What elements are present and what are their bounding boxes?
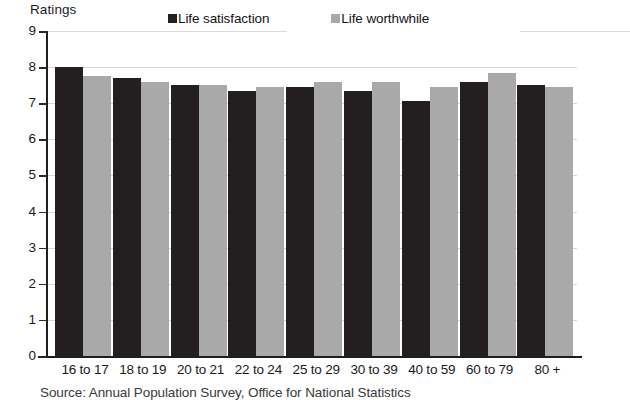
y-axis-tick-label: 8 [4,60,36,74]
bar [171,85,199,356]
legend-swatch-icon [168,14,177,23]
bar-group [344,31,404,356]
legend-item-life-satisfaction: Life satisfaction [168,11,269,26]
x-axis-category-labels: 16 to 1718 to 1920 to 2122 to 2425 to 29… [47,362,577,382]
y-axis-tick-mark [39,212,47,214]
x-axis-category-label: 80 + [512,362,582,377]
bar [286,87,314,356]
bar-group [517,31,577,356]
bar-group [113,31,173,356]
bar [141,82,169,356]
bar [314,82,342,356]
y-axis-tick-label: 7 [4,96,36,110]
bar [199,85,227,356]
bar [488,73,516,356]
y-axis-tick-label: 4 [4,205,36,219]
y-axis-tick-mark [39,356,47,358]
x-axis-line [38,356,582,358]
bar-group [286,31,346,356]
y-axis-tick-label: 5 [4,169,36,183]
y-axis-tick-label: 1 [4,313,36,327]
bar [517,85,545,356]
bar-series-layer [47,31,577,356]
source-note: Source: Annual Population Survey, Office… [40,385,411,400]
bar-group [171,31,231,356]
bar-group [402,31,462,356]
y-axis-tick-mark [39,175,47,177]
y-axis-tick-mark [39,103,47,105]
y-axis-tick-label: 6 [4,133,36,147]
y-axis-tick-mark [39,67,47,69]
bar [545,87,573,356]
y-axis-title: Ratings [30,2,76,17]
bar [372,82,400,356]
y-axis-tick-mark [39,139,47,141]
bar [113,78,141,356]
y-axis-tick-label: 0 [4,349,36,363]
bar [256,87,284,356]
legend-label: Life satisfaction [178,11,269,26]
bar [402,101,430,356]
bar [83,76,111,356]
bar-group [228,31,288,356]
y-axis-tick-mark [39,31,47,33]
legend-item-life-worthwhile: Life worthwhile [331,11,429,26]
y-axis-tick-label: 9 [4,24,36,38]
bar [228,91,256,356]
bar [430,87,458,356]
legend-label: Life worthwhile [341,11,429,26]
y-axis-tick-label: 3 [4,241,36,255]
bar-group [55,31,115,356]
bar [55,67,83,356]
bar-group [460,31,520,356]
bar [460,82,488,356]
y-axis-tick-mark [39,284,47,286]
legend-swatch-icon [331,14,340,23]
bar [344,91,372,356]
y-axis-tick-label: 2 [4,277,36,291]
y-axis-tick-mark [39,320,47,322]
chart-legend: Life satisfaction Life worthwhile [168,9,429,27]
y-axis-tick-mark [39,248,47,250]
